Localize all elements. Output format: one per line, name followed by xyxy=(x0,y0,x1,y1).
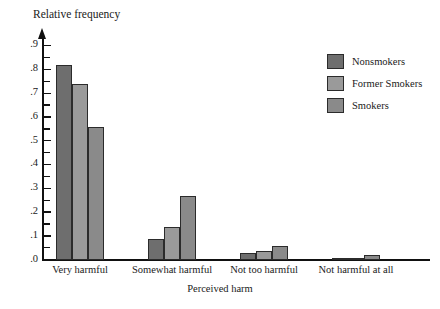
y-tick-label: .8 xyxy=(30,61,38,75)
x-group-label: Not too harmful xyxy=(214,264,314,275)
y-tick-mark xyxy=(43,259,51,260)
y-tick-mark xyxy=(43,69,51,70)
y-tick-mark xyxy=(43,81,50,82)
bar xyxy=(364,255,380,260)
y-tick-mark xyxy=(43,93,51,94)
bar xyxy=(164,227,180,260)
bar xyxy=(72,84,88,260)
y-tick-mark xyxy=(43,176,50,177)
bar xyxy=(256,251,272,261)
legend-item: Former Smokers xyxy=(327,72,422,94)
y-tick-mark xyxy=(43,116,51,117)
y-tick-mark xyxy=(43,104,50,105)
y-tick-mark xyxy=(43,200,50,201)
legend-item: Nonsmokers xyxy=(327,50,422,72)
x-axis-title: Perceived harm xyxy=(0,283,440,294)
legend-label: Smokers xyxy=(352,100,389,111)
x-group-label: Not harmful at all xyxy=(306,264,406,275)
y-tick-mark xyxy=(43,45,51,46)
bar xyxy=(148,239,164,260)
y-tick-mark xyxy=(43,235,51,236)
y-tick-mark xyxy=(43,140,51,141)
y-tick-mark xyxy=(43,188,51,189)
legend-swatch xyxy=(327,76,344,91)
y-tick-label: .2 xyxy=(30,204,38,218)
bar xyxy=(88,127,104,260)
y-axis-line xyxy=(42,38,44,260)
bar xyxy=(332,258,348,260)
y-tick-label: .7 xyxy=(30,85,38,99)
y-tick-mark xyxy=(43,247,50,248)
y-tick-mark xyxy=(43,57,50,58)
bar xyxy=(180,196,196,260)
x-group-label: Very harmful xyxy=(30,264,130,275)
legend-swatch xyxy=(327,54,344,69)
legend-label: Nonsmokers xyxy=(352,56,405,67)
y-tick-label: .3 xyxy=(30,180,38,194)
bar xyxy=(240,253,256,260)
legend-label: Former Smokers xyxy=(352,78,422,89)
y-tick-label: .5 xyxy=(30,133,38,147)
y-tick-mark xyxy=(43,211,51,212)
x-group-label: Somewhat harmful xyxy=(122,264,222,275)
y-tick-mark xyxy=(43,223,50,224)
y-tick-label: .6 xyxy=(30,109,38,123)
chart-figure: Relative frequency .0.1.2.3.4.5.6.7.8.9 … xyxy=(0,0,440,309)
y-axis-title: Relative frequency xyxy=(33,8,120,20)
y-tick-mark xyxy=(43,152,50,153)
y-tick-label: .1 xyxy=(30,228,38,242)
y-tick-mark xyxy=(43,128,50,129)
legend-swatch xyxy=(327,98,344,113)
bar xyxy=(56,65,72,260)
y-tick-mark xyxy=(43,164,51,165)
bar xyxy=(348,258,364,260)
bar xyxy=(272,246,288,260)
y-tick-label: .9 xyxy=(30,37,38,51)
legend: NonsmokersFormer SmokersSmokers xyxy=(327,50,422,116)
legend-item: Smokers xyxy=(327,94,422,116)
y-tick-label: .4 xyxy=(30,156,38,170)
